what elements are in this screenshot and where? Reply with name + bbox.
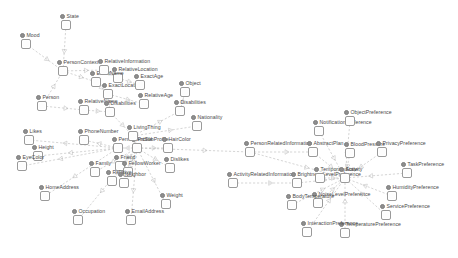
graph-node-tag: FellowWorker	[122, 161, 161, 166]
graph-node-box[interactable]	[308, 147, 318, 157]
graph-node-box[interactable]	[302, 227, 312, 237]
graph-node-box[interactable]	[126, 215, 136, 225]
graph-node-label: ObjectPreference	[351, 110, 392, 115]
graph-node-bullet-icon	[386, 185, 391, 190]
graph-node-bullet-icon	[162, 137, 167, 142]
graph-node-bullet-icon	[16, 155, 21, 160]
graph-node-label: LivingThing	[134, 125, 161, 130]
graph-node-bullet-icon	[102, 83, 107, 88]
graph-node-box[interactable]	[228, 178, 238, 188]
graph-node-label: ServicePreference	[387, 204, 431, 209]
graph-node-bullet-icon	[112, 137, 117, 142]
graph-node-tag: Activity	[339, 167, 362, 172]
graph-node-label: AbstractPlan	[314, 141, 344, 146]
graph-node-box[interactable]	[345, 116, 355, 126]
graph-node-box[interactable]	[17, 161, 27, 171]
graph-node-label: Disabilities	[181, 100, 206, 105]
graph-node-bullet-icon	[164, 157, 169, 162]
graph-node-box[interactable]	[128, 131, 138, 141]
graph-canvas[interactable]: StateMoodPersonContextPersonLikesHeightE…	[0, 0, 458, 258]
graph-node-box[interactable]	[105, 107, 115, 117]
graph-node-box[interactable]	[161, 199, 171, 209]
graph-node-box[interactable]	[61, 20, 71, 30]
graph-node-bullet-icon	[23, 129, 28, 134]
graph-node-tag: Person	[36, 95, 59, 100]
graph-node-bullet-icon	[57, 60, 62, 65]
graph-node-box[interactable]	[139, 99, 149, 109]
graph-node-bullet-icon	[20, 33, 25, 38]
graph-node-tag: PersonRelatedInformation	[244, 141, 312, 146]
graph-node-label: Neighbor	[125, 172, 146, 177]
graph-node-box[interactable]	[107, 176, 117, 186]
graph-node-label: BrightnessLevelPreference	[298, 172, 362, 177]
graph-edge	[42, 106, 84, 110]
graph-node-label: TaskPreference	[408, 162, 445, 167]
graph-node-box[interactable]	[387, 191, 397, 201]
graph-node-tag: Dislikes	[164, 157, 189, 162]
graph-node-box[interactable]	[73, 215, 83, 225]
graph-node-box[interactable]	[340, 173, 350, 183]
graph-node-box[interactable]	[79, 135, 89, 145]
graph-node-bullet-icon	[307, 141, 312, 146]
graph-node-box[interactable]	[90, 167, 100, 177]
graph-node-box[interactable]	[175, 106, 185, 116]
graph-node-bullet-icon	[376, 141, 381, 146]
graph-edge-arrowhead	[363, 184, 368, 188]
graph-node-tag: PersonContext	[57, 60, 98, 65]
graph-node-box[interactable]	[99, 65, 109, 75]
graph-node-label: Disabilities	[111, 101, 136, 106]
graph-node-box[interactable]	[163, 143, 173, 153]
graph-node-box[interactable]	[135, 80, 145, 90]
graph-node-tag: PrivacyPreference	[376, 141, 426, 146]
graph-node-tag: PhoneNumber	[78, 129, 119, 134]
graph-node-label: Object	[186, 81, 201, 86]
graph-node-box[interactable]	[402, 168, 412, 178]
graph-node-tag: ServicePreference	[380, 204, 430, 209]
graph-node-label: Nationality	[198, 115, 223, 120]
graph-node-bullet-icon	[78, 129, 83, 134]
graph-node-box[interactable]	[245, 147, 255, 157]
graph-node-bullet-icon	[90, 71, 95, 76]
graph-node-box[interactable]	[313, 198, 323, 208]
graph-node-box[interactable]	[79, 105, 89, 115]
graph-node-box[interactable]	[381, 210, 391, 220]
graph-node-box[interactable]	[192, 121, 202, 131]
graph-edge-arrowhead	[68, 150, 72, 155]
graph-node-box[interactable]	[165, 163, 175, 173]
graph-node-tag: TaskPreference	[401, 162, 444, 167]
graph-node-bullet-icon	[36, 95, 41, 100]
graph-node-bullet-icon	[60, 14, 65, 19]
graph-node-box[interactable]	[37, 101, 47, 111]
graph-edge-arrowhead	[151, 178, 155, 183]
graph-node-box[interactable]	[345, 148, 355, 158]
graph-node-tag: NotificationPreference	[313, 120, 372, 125]
graph-node-box[interactable]	[113, 143, 123, 153]
graph-node-box[interactable]	[287, 200, 297, 210]
graph-node-box[interactable]	[315, 173, 325, 183]
graph-node-box[interactable]	[180, 87, 190, 97]
graph-node-tag: AbstractPlan	[307, 141, 344, 146]
graph-node-tag: Occupation	[72, 209, 105, 214]
graph-node-tag: LivingThing	[127, 125, 161, 130]
graph-node-bullet-icon	[160, 193, 165, 198]
graph-node-bullet-icon	[118, 172, 123, 177]
graph-node-label: ExactAge	[141, 74, 164, 79]
graph-node-tag: ActivityRelatedInformation	[227, 172, 295, 177]
graph-node-box[interactable]	[24, 135, 34, 145]
graph-node-box[interactable]	[119, 178, 129, 188]
graph-node-box[interactable]	[103, 89, 113, 99]
graph-node-box[interactable]	[340, 228, 350, 238]
graph-edge-arrowhead	[97, 142, 101, 146]
graph-node-bullet-icon	[314, 167, 319, 172]
graph-node-bullet-icon	[138, 93, 143, 98]
graph-node-box[interactable]	[40, 191, 50, 201]
graph-node-box[interactable]	[21, 39, 31, 49]
graph-node-box[interactable]	[292, 178, 302, 188]
graph-node-box[interactable]	[58, 66, 68, 76]
graph-node-bullet-icon	[32, 145, 37, 150]
graph-node-box[interactable]	[91, 77, 101, 87]
graph-node-box[interactable]	[377, 147, 387, 157]
graph-node-box[interactable]	[132, 143, 142, 153]
graph-node-box[interactable]	[314, 126, 324, 136]
graph-node-bullet-icon	[380, 204, 385, 209]
